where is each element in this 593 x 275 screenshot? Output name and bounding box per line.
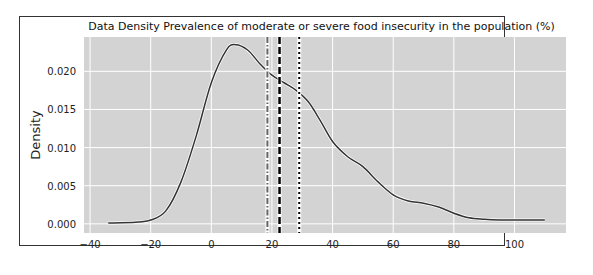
y-tick-label: 0.020 bbox=[47, 66, 76, 77]
y-tick-label: 0.000 bbox=[47, 219, 76, 230]
x-tick-label: 60 bbox=[387, 239, 400, 250]
y-tick-label: 0.005 bbox=[47, 181, 76, 192]
y-tick-label: 0.010 bbox=[47, 143, 76, 154]
y-tick-label: 0.015 bbox=[47, 104, 76, 115]
x-tick-label: −40 bbox=[80, 239, 101, 250]
plot-area bbox=[84, 37, 566, 233]
x-tick-label: −20 bbox=[140, 239, 161, 250]
density-chart: −40−200204060801000.0000.0050.0100.0150.… bbox=[0, 0, 593, 275]
x-tick-label: 40 bbox=[326, 239, 339, 250]
y-axis-label: Density bbox=[28, 110, 43, 160]
x-tick-label: 0 bbox=[208, 239, 214, 250]
x-tick-label: 80 bbox=[447, 239, 460, 250]
x-tick-label: 20 bbox=[266, 239, 279, 250]
x-tick-label: 100 bbox=[505, 239, 524, 250]
